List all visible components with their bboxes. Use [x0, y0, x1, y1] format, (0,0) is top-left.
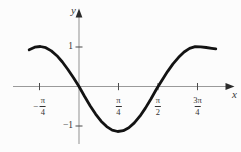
plot-canvas — [0, 0, 241, 152]
x-axis-arrow-icon — [226, 83, 235, 90]
function-graph-figure: y x −π4π4π23π41−1 — [0, 0, 241, 152]
curve-path — [29, 47, 216, 132]
y-axis-arrow-icon — [76, 9, 83, 18]
